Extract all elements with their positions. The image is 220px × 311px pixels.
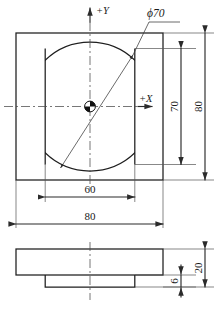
front-view: 6 20 xyxy=(16,242,214,300)
dim-boss-thickness-text: 6 xyxy=(168,278,180,284)
dim-total-thickness-text: 20 xyxy=(192,262,204,274)
origin-marker xyxy=(85,101,96,112)
top-view: +Y +X ϕ70 70 xyxy=(4,5,214,228)
drawing-canvas: +Y +X ϕ70 70 xyxy=(0,0,220,311)
axis-x-label: +X xyxy=(139,93,153,104)
dim-flat-width-text: 60 xyxy=(85,183,97,195)
axis-y-label: +Y xyxy=(96,5,110,16)
dim-plate-height-text: 80 xyxy=(192,101,204,113)
engineering-drawing: +Y +X ϕ70 70 xyxy=(0,0,220,311)
diameter-leader-extension xyxy=(133,22,149,55)
plate-body-profile xyxy=(16,249,163,275)
dim-plate-width-text: 80 xyxy=(85,210,97,222)
dim-pocket-height-text: 70 xyxy=(168,101,180,113)
diameter-label: ϕ70 xyxy=(147,7,165,20)
diameter-leader-line xyxy=(61,55,134,168)
